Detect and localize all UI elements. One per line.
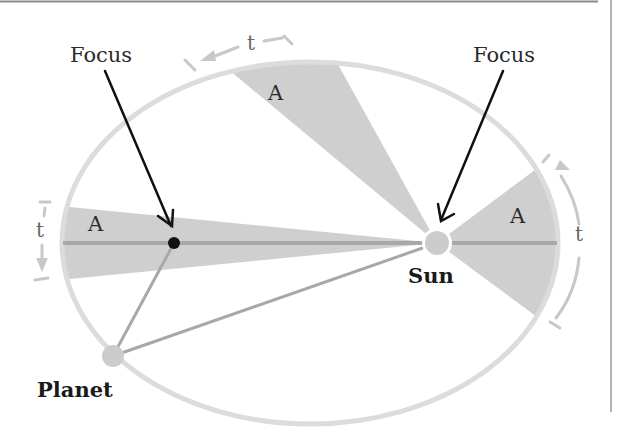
kepler-diagram: Focus Focus A A A t t t Sun Planet bbox=[0, 0, 619, 442]
sun-label: Sun bbox=[408, 263, 454, 288]
focus-point bbox=[168, 237, 180, 249]
planet-label: Planet bbox=[37, 377, 113, 402]
swept-areas bbox=[40, 50, 575, 345]
sector-top bbox=[205, 50, 437, 243]
area-label-top: A bbox=[267, 81, 284, 105]
time-label-left: t bbox=[36, 218, 44, 242]
time-label-top: t bbox=[247, 31, 255, 55]
area-label-left: A bbox=[87, 212, 104, 236]
focus-arrow-left bbox=[105, 71, 173, 226]
focus-label-left: Focus bbox=[70, 43, 132, 67]
time-label-right: t bbox=[575, 222, 583, 246]
focus-label-right: Focus bbox=[473, 43, 535, 67]
area-label-right: A bbox=[509, 204, 526, 228]
sun bbox=[425, 231, 449, 255]
planet bbox=[102, 345, 124, 367]
